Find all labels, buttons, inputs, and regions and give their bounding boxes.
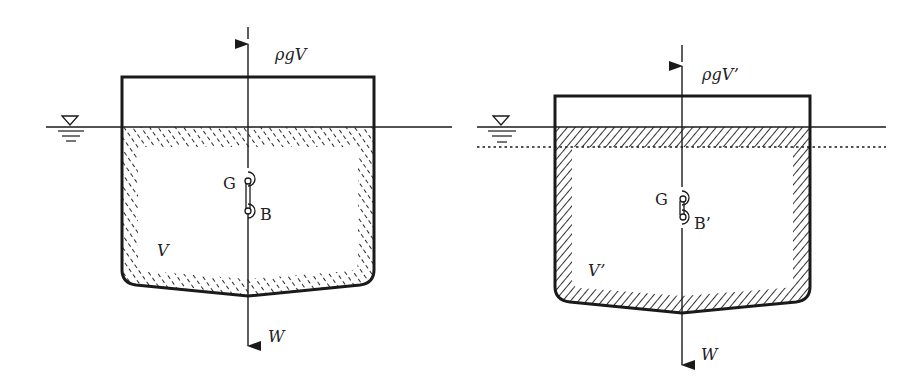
buoyancy-diagram: ρgV W V G B ρgV (0, 0, 922, 384)
weight-label: W (268, 327, 286, 346)
right-panel: ρgV’ W V’ G B’ (477, 45, 886, 365)
water-level-icon (58, 116, 84, 141)
b-label: B’ (694, 214, 711, 233)
water-level-icon (488, 116, 516, 142)
left-panel: ρgV W V G B (46, 27, 452, 346)
buoyancy-label: ρgV’ (701, 65, 739, 84)
volume-label: V (157, 241, 170, 260)
volume-label: V’ (588, 261, 605, 280)
buoyancy-label: ρgV (274, 45, 308, 64)
g-b-link-icon (680, 191, 689, 224)
b-label: B (260, 205, 272, 224)
g-label: G (223, 174, 236, 193)
g-label: G (655, 190, 668, 209)
weight-label: W (701, 345, 719, 364)
g-b-link-icon (245, 172, 255, 218)
